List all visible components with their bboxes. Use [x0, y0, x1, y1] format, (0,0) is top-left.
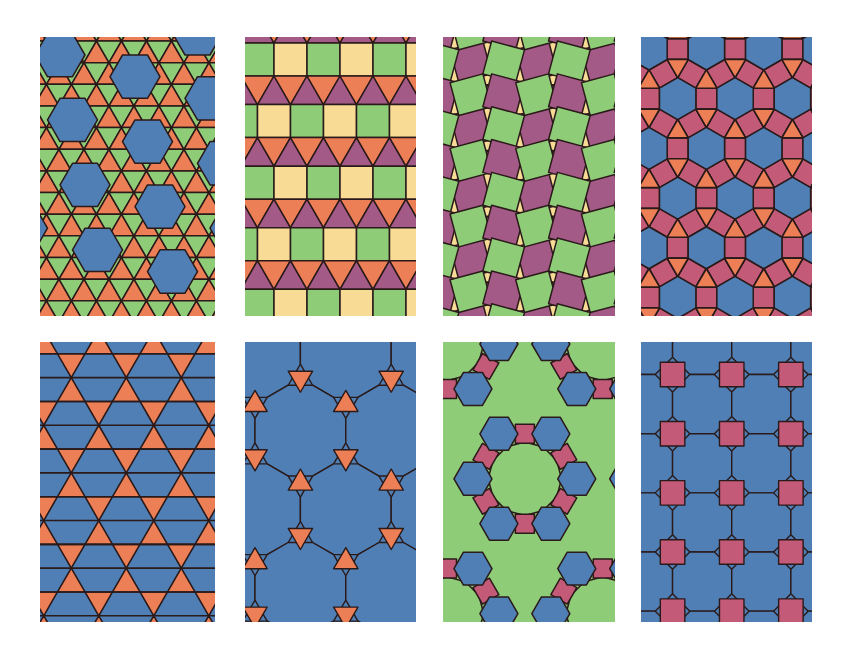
snub-square-tiling-image	[443, 37, 615, 316]
trihexagonal-tiling-image	[40, 342, 215, 622]
tiling-panel-rhombitrihexagonal	[641, 37, 812, 316]
truncated-square-tiling-image	[641, 342, 812, 622]
tiling-panel-truncated-trihexagonal	[443, 342, 615, 622]
snub-hexagonal-tiling-image	[40, 37, 215, 316]
tiling-panel-truncated-square	[641, 342, 812, 622]
rhombitrihexagonal-tiling-image	[641, 37, 812, 316]
tiling-panel-snub-hexagonal	[40, 37, 215, 316]
truncated-trihexagonal-tiling-image	[443, 342, 615, 622]
tiling-panel-trihexagonal	[40, 342, 215, 622]
elongated-triangular-tiling-image	[245, 37, 416, 316]
tiling-panel-elongated-triangular	[245, 37, 416, 316]
tiling-panel-truncated-hexagonal	[245, 342, 416, 622]
tiling-panel-snub-square	[443, 37, 615, 316]
truncated-hexagonal-tiling-image	[245, 342, 416, 622]
